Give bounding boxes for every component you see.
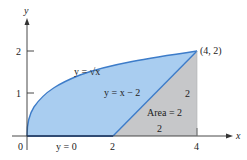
diagram-canvas: y x 2 1 0 2 4 y = √x y = x − 2 y = 0 (4,…: [0, 0, 247, 160]
triangle-height-label: 2: [185, 88, 190, 99]
xaxis-curve-label: y = 0: [56, 141, 77, 152]
x-axis-arrow-icon: [226, 134, 233, 139]
line-curve-label: y = x − 2: [104, 87, 140, 98]
y-tick-label-2: 2: [16, 46, 21, 57]
y-tick-label-1: 1: [16, 88, 21, 99]
x-tick-label-4: 4: [194, 141, 199, 152]
x-axis-label: x: [235, 130, 241, 141]
triangle-area-label: Area = 2: [147, 107, 182, 118]
y-axis-label: y: [23, 5, 29, 16]
sqrt-curve-label: y = √x: [74, 66, 100, 77]
x-tick-label-0: 0: [18, 141, 23, 152]
x-tick-label-2: 2: [110, 141, 115, 152]
y-axis-arrow-icon: [25, 18, 30, 25]
triangle-base-label: 2: [157, 123, 162, 134]
point-label: (4, 2): [200, 45, 222, 57]
